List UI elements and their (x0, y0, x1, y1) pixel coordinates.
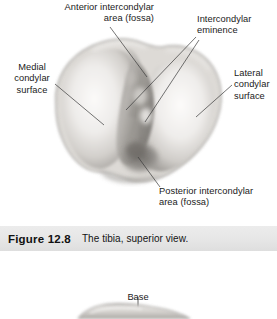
figure-caption-text: The tibia, superior view. (82, 233, 188, 244)
label-medial-condylar-surface: Medial condylar surface (2, 62, 62, 96)
label-intercondylar-eminence: Intercondylar eminence (197, 14, 275, 37)
figure-page: Anterior intercondylar area (fossa) Inte… (0, 0, 277, 319)
figure-caption-bar: Figure 12.8 The tibia, superior view. (0, 226, 277, 251)
label-lateral-condylar-surface: Lateral condylar surface (234, 68, 277, 102)
label-anterior-intercondylar-area: Anterior intercondylar area (fossa) (6, 2, 154, 25)
figure-number: Figure 12.8 (8, 233, 71, 245)
next-figure-partial: Base (0, 251, 277, 319)
tibial-plateau-body (56, 39, 221, 182)
label-base: Base (108, 292, 168, 303)
label-posterior-intercondylar-area: Posterior intercondylar area (fossa) (159, 186, 277, 209)
